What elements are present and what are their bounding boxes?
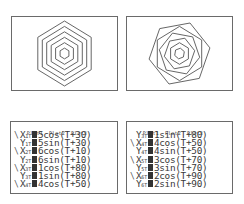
graph-style-icon[interactable] [32, 139, 37, 146]
equation-row[interactable]: Y6T2sin(T+90) [130, 180, 232, 188]
equation-subscript: 3T [25, 165, 31, 173]
hexagon-curve [47, 32, 83, 75]
equation-subscript: 5T [141, 165, 147, 173]
hexagon-curve [175, 48, 185, 59]
equation-editor-left: Plot1Plot2Plot3 \X1T5cos(T+30)Y1T5sin(T+… [10, 121, 118, 194]
graph-style-icon[interactable] [32, 164, 37, 171]
equation-subscript: 4T [141, 148, 147, 156]
equation-expression[interactable]: 2sin(T+90) [154, 180, 207, 188]
equation-subscript: 4T [141, 140, 147, 148]
graph-style-icon[interactable] [148, 147, 153, 154]
graph-style-icon[interactable] [32, 131, 37, 138]
equation-subscript: 1T [25, 140, 31, 148]
equation-expression[interactable]: 4cos(T+50) [38, 180, 91, 188]
graph-style-icon[interactable] [32, 180, 37, 187]
graph-style-icon[interactable] [32, 156, 37, 163]
graph-style-icon[interactable] [148, 164, 153, 171]
equation-subscript: 3T [25, 173, 31, 181]
hexagon-curve [60, 48, 69, 59]
graph-style-icon[interactable] [148, 180, 153, 187]
hexagon-curve [42, 26, 86, 80]
equation-subscript: 6T [141, 181, 147, 189]
equation-subscript: 2T [25, 148, 31, 156]
hexagon-curve [171, 43, 189, 65]
equation-subscript: 4T [25, 181, 31, 189]
graph-plot-left [12, 17, 117, 90]
equation-subscript: 2T [25, 157, 31, 165]
graph-screen-right [126, 16, 233, 91]
graph-style-icon[interactable] [32, 172, 37, 179]
equation-subscript: 5T [141, 157, 147, 165]
hexagon-curve [56, 43, 74, 65]
hexagon-curve [38, 21, 91, 86]
graph-style-icon[interactable] [148, 156, 153, 163]
equation-editor-right: Plot1Plot2Plot3 Y3T1sin(T+80)\X4T4cos(T+… [126, 121, 233, 194]
graph-plot-right [127, 17, 232, 90]
equation-subscript: 1T [25, 132, 31, 140]
graph-style-icon[interactable] [148, 172, 153, 179]
equation-row[interactable]: \X4T4cos(T+50) [14, 180, 117, 188]
equation-subscript: 6T [141, 173, 147, 181]
graph-style-icon[interactable] [148, 131, 153, 138]
hexagon-curve [149, 23, 210, 84]
graph-style-icon[interactable] [148, 139, 153, 146]
graph-screen-left [11, 16, 118, 91]
graph-style-icon[interactable] [32, 147, 37, 154]
equation-subscript: 3T [141, 132, 147, 140]
